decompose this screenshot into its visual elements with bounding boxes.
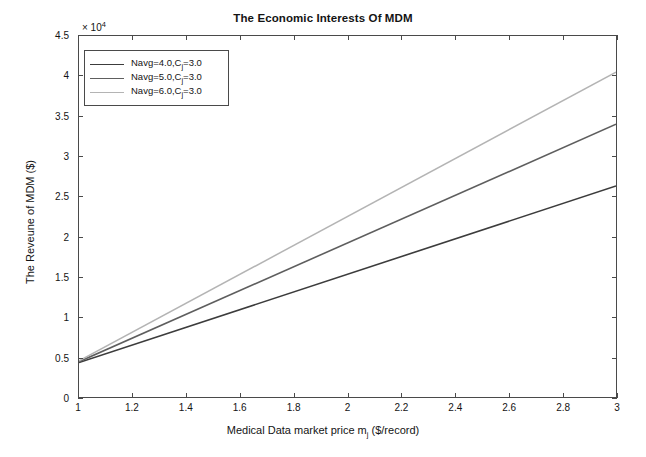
x-tick-mark [401, 393, 402, 398]
x-tick-label: 1.8 [287, 402, 301, 413]
x-axis-title-main: Medical Data market price m [227, 424, 367, 436]
y-tick-mark [78, 75, 83, 76]
y-tick-mark [612, 277, 617, 278]
x-tick-label: 3 [614, 402, 620, 413]
y-tick-label: 4.5 [55, 30, 69, 41]
x-tick-mark [186, 393, 187, 398]
x-tick-mark [186, 35, 187, 40]
y-tick-mark [612, 358, 617, 359]
x-tick-mark [348, 393, 349, 398]
y-tick-mark [612, 75, 617, 76]
y-tick-mark [78, 358, 83, 359]
x-tick-label: 2.8 [556, 402, 570, 413]
y-tick-label: 3 [63, 151, 69, 162]
y-tick-label: 4 [63, 70, 69, 81]
y-axis-title: The Reveune of MDM ($) [24, 52, 36, 392]
y-tick-label: 0 [63, 393, 69, 404]
y-tick-mark [78, 116, 83, 117]
x-tick-mark [294, 393, 295, 398]
y-tick-mark [612, 156, 617, 157]
series-line-2 [79, 72, 616, 361]
x-tick-label: 1 [75, 402, 81, 413]
series-line-1 [79, 124, 616, 361]
y-tick-label: 2 [63, 231, 69, 242]
y-tick-mark [612, 237, 617, 238]
x-tick-mark [509, 35, 510, 40]
x-tick-mark [455, 35, 456, 40]
series-line-0 [79, 186, 616, 362]
x-tick-mark [563, 393, 564, 398]
legend-label: Navg=6.0,Cj=3.0 [131, 86, 202, 99]
x-tick-label: 1.6 [233, 402, 247, 413]
x-tick-mark [78, 35, 79, 40]
x-tick-mark [401, 35, 402, 40]
legend-item-0: Navg=4.0,Cj=3.0 [90, 57, 221, 71]
x-tick-label: 1.4 [179, 402, 193, 413]
legend-swatch-line-icon [90, 92, 124, 93]
legend-label: Navg=5.0,Cj=3.0 [131, 72, 202, 85]
y-tick-mark [78, 317, 83, 318]
x-tick-mark [78, 393, 79, 398]
x-tick-mark [455, 393, 456, 398]
x-tick-label: 2.2 [394, 402, 408, 413]
y-tick-mark [612, 317, 617, 318]
y-tick-mark [612, 196, 617, 197]
x-tick-label: 2.6 [502, 402, 516, 413]
legend-item-2: Navg=6.0,Cj=3.0 [90, 85, 221, 99]
x-axis-title-tail: ($/record) [368, 424, 419, 436]
y-tick-mark [612, 398, 617, 399]
y-tick-label: 1.5 [55, 272, 69, 283]
x-tick-label: 1.2 [125, 402, 139, 413]
x-tick-label: 2.4 [448, 402, 462, 413]
chart-legend: Navg=4.0,Cj=3.0Navg=5.0,Cj=3.0Navg=6.0,C… [84, 50, 229, 106]
x-tick-mark [617, 393, 618, 398]
legend-label: Navg=4.0,Cj=3.0 [131, 58, 202, 71]
y-exponent-prefix: × 10 [82, 22, 102, 33]
legend-swatch-line-icon [90, 78, 124, 79]
x-tick-mark [132, 393, 133, 398]
y-tick-label: 2.5 [55, 191, 69, 202]
x-tick-mark [294, 35, 295, 40]
legend-item-1: Navg=5.0,Cj=3.0 [90, 71, 221, 85]
y-tick-mark [78, 277, 83, 278]
y-tick-mark [78, 237, 83, 238]
x-tick-mark [563, 35, 564, 40]
y-tick-label: 1 [63, 312, 69, 323]
x-tick-mark [617, 35, 618, 40]
y-tick-label: 0.5 [55, 352, 69, 363]
x-axis-title: Medical Data market price mj ($/record) [0, 424, 646, 439]
x-tick-mark [240, 393, 241, 398]
y-tick-label: 3.5 [55, 110, 69, 121]
x-tick-mark [132, 35, 133, 40]
x-tick-mark [348, 35, 349, 40]
y-tick-mark [78, 156, 83, 157]
x-tick-mark [240, 35, 241, 40]
y-tick-mark [612, 116, 617, 117]
y-tick-mark [78, 196, 83, 197]
x-tick-mark [509, 393, 510, 398]
x-tick-label: 2 [345, 402, 351, 413]
legend-swatch-line-icon [90, 64, 124, 65]
y-tick-mark [78, 398, 83, 399]
chart-figure: The Economic Interests Of MDM × 104 Navg… [0, 0, 646, 457]
y-exponent-power: 4 [102, 20, 106, 29]
y-axis-exponent-multiplier: × 104 [82, 20, 106, 33]
